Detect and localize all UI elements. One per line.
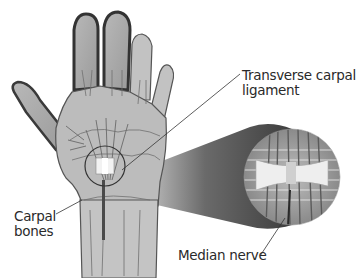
label-transverse-carpal-ligament: Transverse carpalligament xyxy=(242,68,356,98)
label-median-nerve: Median nerve xyxy=(178,248,267,263)
label-carpal-bones: Carpalbones xyxy=(14,209,56,239)
